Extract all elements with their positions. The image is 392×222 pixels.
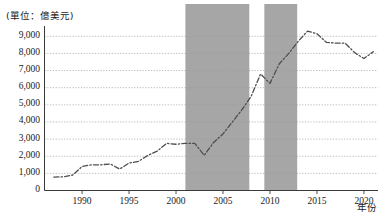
y-tick-label-0: 0 xyxy=(0,184,40,194)
y-tick-label-9,000: 9,000 xyxy=(0,30,40,40)
x-axis-title: 年份 xyxy=(357,200,377,214)
y-tick-label-8,000: 8,000 xyxy=(0,47,40,57)
shaded-band-1 xyxy=(185,4,249,191)
recession-shaded-bands xyxy=(185,4,297,191)
y-tick-label-3,000: 3,000 xyxy=(0,133,40,143)
y-tick-label-2,000: 2,000 xyxy=(0,150,40,160)
x-tick-label-2000: 2000 xyxy=(156,196,196,206)
chart-container: (單位：億美元) 01,0002,0003,0004,0005,0006,000… xyxy=(0,0,392,222)
y-tick-label-6,000: 6,000 xyxy=(0,81,40,91)
y-tick-label-5,000: 5,000 xyxy=(0,98,40,108)
x-tick-label-2005: 2005 xyxy=(203,196,243,206)
shaded-band-2 xyxy=(264,4,297,191)
x-tick-label-2015: 2015 xyxy=(297,196,337,206)
y-tick-label-1,000: 1,000 xyxy=(0,167,40,177)
x-tick-label-2010: 2010 xyxy=(250,196,290,206)
x-axis-ticks xyxy=(82,191,364,195)
x-tick-label-1995: 1995 xyxy=(109,196,149,206)
line-chart-plot xyxy=(0,0,392,222)
y-tick-label-4,000: 4,000 xyxy=(0,115,40,125)
x-tick-label-1990: 1990 xyxy=(62,196,102,206)
y-tick-label-7,000: 7,000 xyxy=(0,64,40,74)
